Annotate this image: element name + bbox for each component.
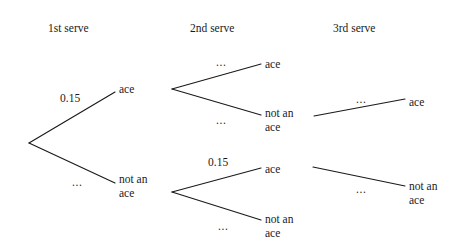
edge-label-prob-first-serve-ace: 0.15 — [60, 92, 80, 105]
edge-label-prob-second-serve-lower-ace: 0.15 — [208, 156, 228, 169]
node-serve2-lower-not-ace: not an ace — [265, 212, 293, 240]
node-serve1-ace: ace — [119, 82, 134, 96]
tree-edge-serve2-upper-to-not-ace — [172, 89, 261, 115]
edge-label-prob-third-serve-upper: ... — [356, 93, 366, 106]
edge-label-prob-second-serve-upper-ace: ... — [216, 56, 226, 69]
node-line: ace — [409, 193, 437, 207]
node-serve2-lower-ace: ace — [265, 162, 280, 176]
node-serve3-upper-ace: ace — [409, 95, 424, 109]
edge-label-prob-second-serve-upper-not-ace: ... — [216, 114, 226, 127]
node-line: ace — [119, 186, 147, 200]
node-line: ace — [265, 226, 293, 240]
node-line: ace — [265, 162, 280, 176]
node-line: not an — [409, 179, 437, 193]
edge-label-prob-second-serve-lower-not-ace: ... — [218, 220, 228, 233]
node-line: not an — [265, 106, 293, 120]
node-line: not an — [119, 172, 147, 186]
node-line: ace — [265, 57, 280, 71]
column-header-2nd-serve: 2nd serve — [190, 22, 234, 35]
node-line: not an — [265, 212, 293, 226]
node-serve2-upper-ace: ace — [265, 57, 280, 71]
node-line: ace — [119, 82, 134, 96]
probability-tree-diagram: 1st serve 2nd serve 3rd serve ace not an… — [0, 0, 465, 248]
edge-label-prob-third-serve-lower: ... — [356, 183, 366, 196]
column-header-3rd-serve: 3rd serve — [333, 22, 375, 35]
node-serve3-lower-not-ace: not an ace — [409, 179, 437, 207]
edge-label-prob-first-serve-not-ace: ... — [72, 176, 82, 189]
node-line: ace — [265, 120, 293, 134]
tree-edges-layer — [0, 0, 465, 248]
tree-edge-serve2-lower-to-ace — [172, 168, 261, 192]
node-line: ace — [409, 95, 424, 109]
tree-edge-serve2-lower-to-not-ace — [172, 192, 261, 220]
column-header-1st-serve: 1st serve — [48, 22, 89, 35]
node-serve1-not-ace: not an ace — [119, 172, 147, 200]
node-serve2-upper-not-ace: not an ace — [265, 106, 293, 134]
